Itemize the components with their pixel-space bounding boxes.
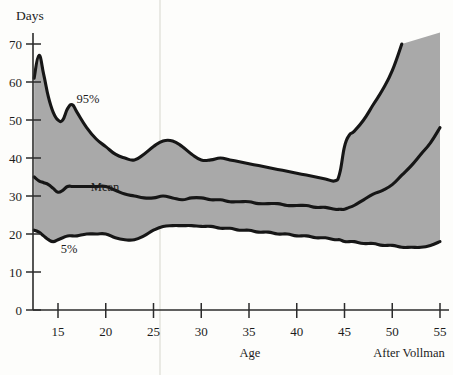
y-tick-label: 60 bbox=[9, 75, 22, 90]
y-tick-label: 20 bbox=[9, 227, 22, 242]
x-axis-title: Age bbox=[240, 346, 261, 360]
menstrual-cycle-length-chart: 010203040506070 152025303540455055 Days … bbox=[0, 0, 453, 375]
x-tick-label: 15 bbox=[52, 324, 65, 339]
x-tick-label: 55 bbox=[434, 324, 447, 339]
y-tick-label: 70 bbox=[9, 37, 22, 52]
y-tick-label: 40 bbox=[9, 151, 22, 166]
upper-curve-label: 95% bbox=[77, 92, 100, 106]
percentile-band-fill bbox=[34, 33, 440, 248]
x-tick-label: 25 bbox=[147, 324, 160, 339]
y-axis-unit-label: Days bbox=[16, 8, 44, 23]
y-tick-label: 0 bbox=[16, 303, 23, 318]
mean-curve-label: Mean bbox=[91, 180, 120, 194]
y-tick-label: 50 bbox=[9, 113, 22, 128]
x-tick-label: 45 bbox=[338, 324, 351, 339]
x-tick-label: 35 bbox=[243, 324, 256, 339]
x-axis-ticks: 152025303540455055 bbox=[52, 303, 447, 339]
lower-curve-label: 5% bbox=[61, 242, 78, 256]
x-tick-label: 20 bbox=[99, 324, 112, 339]
y-tick-label: 30 bbox=[9, 189, 22, 204]
source-credit-label: After Vollman bbox=[373, 346, 445, 360]
chart-page: 010203040506070 152025303540455055 Days … bbox=[0, 0, 453, 375]
x-tick-label: 50 bbox=[386, 324, 399, 339]
y-tick-label: 10 bbox=[9, 265, 22, 280]
x-tick-label: 30 bbox=[195, 324, 208, 339]
x-tick-label: 40 bbox=[290, 324, 303, 339]
